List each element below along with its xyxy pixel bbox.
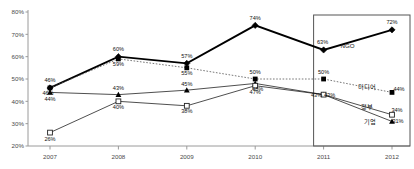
data-label-NGO: 57% — [181, 53, 192, 59]
x-tick-label: 2011 — [317, 153, 331, 160]
x-tick-label: 2010 — [248, 153, 262, 160]
y-tick-label: 20% — [12, 142, 25, 149]
data-label-NGO: 74% — [250, 15, 261, 21]
marker-미디어 — [321, 77, 326, 82]
data-label-기업: 43% — [324, 92, 335, 98]
y-tick-label: 50% — [12, 75, 25, 82]
x-tick-label: 2009 — [180, 153, 194, 160]
series-markers — [47, 22, 395, 135]
data-label-정부: 26% — [44, 136, 55, 142]
data-label-기업: 45% — [181, 81, 192, 87]
series-label-ngo: NGO — [341, 42, 355, 49]
data-label-NGO: 72% — [386, 19, 397, 25]
highlight-box — [314, 15, 410, 146]
data-label-미디어: 50% — [318, 69, 329, 75]
series-line-정부 — [50, 86, 392, 133]
line-chart: 20%30%40%50%60%70%80%2007200820092010201… — [0, 0, 414, 169]
data-label-기업: 43% — [113, 85, 124, 91]
marker-정부 — [48, 130, 53, 135]
series-label-business: 기업 — [364, 118, 376, 126]
data-label-정부: 34% — [391, 107, 402, 113]
y-tick-label: 70% — [12, 31, 25, 38]
chart-canvas: 20%30%40%50%60%70%80%2007200820092010201… — [0, 0, 414, 169]
series-label-government: 정부 — [361, 103, 373, 111]
data-label-기업: 44% — [44, 96, 55, 102]
data-label-기업: 31% — [392, 118, 403, 124]
data-label-미디어: 59% — [113, 61, 124, 67]
data-label-정부: 47% — [250, 89, 261, 95]
data-label-정부: 43% — [311, 92, 322, 98]
marker-NGO — [321, 47, 327, 53]
series-line-NGO — [50, 25, 392, 88]
y-tick-label: 40% — [12, 98, 25, 105]
data-label-NGO: 46% — [44, 77, 55, 83]
series-label-media: 미디어 — [358, 83, 376, 91]
data-label-정부: 38% — [181, 108, 192, 114]
data-label-NGO: 60% — [113, 46, 124, 52]
y-tick-label: 30% — [12, 120, 25, 127]
data-label-NGO: 63% — [317, 39, 328, 45]
data-label-미디어: 55% — [181, 70, 192, 76]
highlight-rect — [314, 15, 410, 146]
x-tick-label: 2007 — [43, 153, 57, 160]
x-tick-label: 2012 — [385, 153, 399, 160]
data-label-미디어: 44% — [393, 86, 404, 92]
x-tick-label: 2008 — [112, 153, 126, 160]
y-tick-label: 80% — [12, 8, 25, 15]
marker-NGO — [389, 27, 395, 33]
data-label-정부: 40% — [113, 104, 124, 110]
data-labels: 46%60%57%74%63%72%46%59%55%50%50%44%44%4… — [42, 15, 404, 142]
y-tick-label: 60% — [12, 53, 25, 60]
data-label-미디어: 50% — [250, 69, 261, 75]
series-line-기업 — [50, 83, 392, 121]
